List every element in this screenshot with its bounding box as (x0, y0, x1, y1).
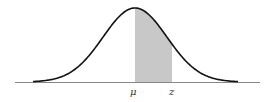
z-label: z (168, 86, 175, 97)
normal-curve-diagram: μ z (0, 0, 272, 102)
mean-label: μ (130, 86, 137, 97)
